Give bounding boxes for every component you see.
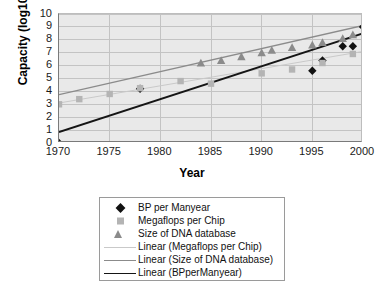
y-tick-label: 7	[6, 46, 52, 57]
diamond-marker-icon	[116, 203, 126, 213]
x-tick-label: 1995	[289, 145, 333, 157]
legend-marker-swatch	[100, 215, 138, 227]
x-tick-label: 1980	[137, 145, 181, 157]
y-tick-label: 5	[6, 72, 52, 83]
x-axis-tick-labels: 1970197519801985199019952000	[0, 145, 384, 161]
chart-container: Capacity (log10) 012345678910 1970197519…	[0, 0, 384, 294]
y-axis-tick-labels: 012345678910	[4, 0, 52, 160]
data-point-square	[258, 70, 264, 76]
y-tick-label: 3	[6, 98, 52, 109]
x-axis-title: Year	[0, 166, 384, 180]
legend-line-icon	[104, 273, 136, 274]
x-tick-label: 1990	[239, 145, 283, 157]
legend-item[interactable]: Megaflops per Chip	[100, 215, 284, 227]
legend-item-label: BP per Manyear	[138, 202, 210, 214]
legend-item[interactable]: Linear (BPperManyear)	[100, 267, 284, 279]
legend-item[interactable]: BP per Manyear	[100, 202, 284, 214]
legend-line-swatch	[100, 267, 138, 279]
plot-svg	[59, 14, 362, 142]
y-tick-label: 4	[6, 85, 52, 96]
triangle-marker-icon	[114, 230, 122, 238]
legend-item-label: Linear (Megaflops per Chip)	[138, 241, 262, 253]
data-point-square	[137, 85, 143, 91]
x-tick-label: 1970	[36, 145, 80, 157]
data-point-diamond	[359, 23, 362, 31]
data-point-square	[177, 78, 183, 84]
data-point-diamond	[308, 67, 316, 75]
x-tick-label: 1985	[188, 145, 232, 157]
data-point-triangle	[288, 43, 296, 51]
data-point-triangle	[308, 41, 316, 49]
legend-item-label: Megaflops per Chip	[138, 215, 225, 227]
y-tick-label: 10	[6, 8, 52, 19]
y-tick-label: 8	[6, 33, 52, 44]
legend-marker-swatch	[100, 202, 138, 214]
plot-area	[58, 13, 362, 142]
x-tick-label: 1975	[87, 145, 131, 157]
data-point-square	[106, 91, 112, 97]
legend-item[interactable]: Linear (Megaflops per Chip)	[100, 241, 284, 253]
legend-line-swatch	[100, 254, 138, 266]
legend-line-icon	[104, 247, 136, 248]
data-point-square	[289, 66, 295, 72]
data-point-square	[76, 96, 82, 102]
data-point-square	[350, 51, 356, 57]
data-point-square	[319, 60, 325, 66]
y-tick-label: 9	[6, 20, 52, 31]
legend-item[interactable]: Size of DNA database	[100, 228, 284, 240]
legend-item-label: Size of DNA database	[138, 228, 236, 240]
data-point-diamond	[349, 42, 357, 50]
y-tick-label: 1	[6, 124, 52, 135]
chart-legend: BP per ManyearMegaflops per ChipSize of …	[99, 197, 285, 281]
square-marker-icon	[117, 218, 124, 225]
y-tick-label: 6	[6, 59, 52, 70]
legend-item-label: Linear (BPperManyear)	[138, 267, 242, 279]
legend-marker-swatch	[100, 228, 138, 240]
data-point-triangle	[349, 30, 357, 38]
legend-item-label: Linear (Size of DNA database)	[138, 254, 273, 266]
data-point-diamond	[59, 139, 63, 142]
data-point-diamond	[339, 42, 347, 50]
data-point-square	[59, 101, 62, 107]
legend-item[interactable]: Linear (Size of DNA database)	[100, 254, 284, 266]
data-point-square	[208, 80, 214, 86]
x-tick-label: 2000	[340, 145, 384, 157]
legend-line-swatch	[100, 241, 138, 253]
y-tick-label: 2	[6, 111, 52, 122]
legend-line-icon	[104, 260, 136, 261]
